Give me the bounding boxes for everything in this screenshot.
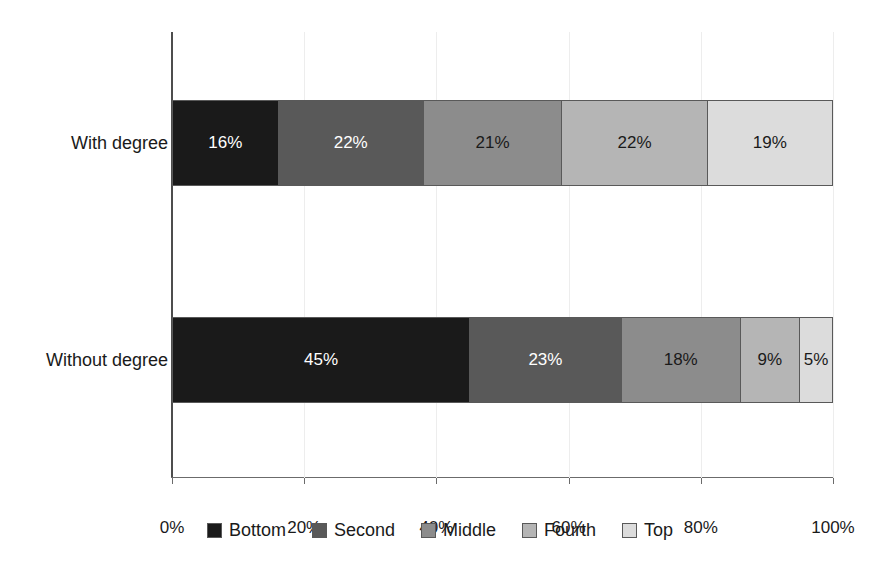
legend-swatch-icon: [522, 523, 537, 538]
bar-row: 16%22%21%22%19%: [172, 100, 833, 186]
bar-row: 45%23%18%9%5%: [172, 317, 833, 403]
bar-segment-second: 22%: [278, 100, 424, 186]
category-label-text: Without degree: [46, 350, 168, 370]
category-label: Without degree: [0, 317, 168, 403]
legend-item-middle[interactable]: Middle: [421, 520, 496, 541]
category-label: With degree: [0, 100, 168, 186]
x-tick-mark: [833, 478, 834, 484]
legend-item-second[interactable]: Second: [312, 520, 395, 541]
legend-item-top[interactable]: Top: [622, 520, 673, 541]
legend-swatch-icon: [421, 523, 436, 538]
gridline: [833, 32, 834, 478]
bar-segment-bottom: 16%: [172, 100, 279, 186]
legend-swatch-icon: [312, 523, 327, 538]
legend-label: Second: [334, 520, 395, 541]
legend-label: Fourth: [544, 520, 596, 541]
bar-segment-second: 23%: [469, 317, 622, 403]
legend-label: Bottom: [229, 520, 286, 541]
legend-swatch-icon: [622, 523, 637, 538]
x-axis-line: [171, 477, 834, 478]
bar-segment-fourth: 22%: [561, 100, 707, 186]
x-tick-mark: [569, 478, 570, 484]
gridline: [304, 32, 305, 478]
category-label-text: With degree: [71, 133, 168, 153]
x-tick-mark: [172, 478, 173, 484]
bar-segment-middle: 21%: [423, 100, 563, 186]
legend-label: Middle: [443, 520, 496, 541]
legend-item-fourth[interactable]: Fourth: [522, 520, 596, 541]
bar-segment-bottom: 45%: [172, 317, 470, 403]
chart-legend: BottomSecondMiddleFourthTop: [0, 520, 880, 541]
x-tick-mark: [304, 478, 305, 484]
bar-segment-top: 5%: [799, 317, 833, 403]
bar-segment-middle: 18%: [621, 317, 741, 403]
bar-segment-top: 19%: [707, 100, 833, 186]
gridline: [701, 32, 702, 478]
gridline: [569, 32, 570, 478]
legend-swatch-icon: [207, 523, 222, 538]
gridline: [436, 32, 437, 478]
stacked-bar-chart: 0%20%40%60%80%100% 16%22%21%22%19%45%23%…: [0, 0, 880, 573]
bar-segment-fourth: 9%: [740, 317, 800, 403]
plot-area: 0%20%40%60%80%100% 16%22%21%22%19%45%23%…: [172, 32, 833, 478]
x-tick-mark: [436, 478, 437, 484]
legend-item-bottom[interactable]: Bottom: [207, 520, 286, 541]
y-axis-line: [171, 32, 173, 478]
x-tick-mark: [701, 478, 702, 484]
legend-label: Top: [644, 520, 673, 541]
